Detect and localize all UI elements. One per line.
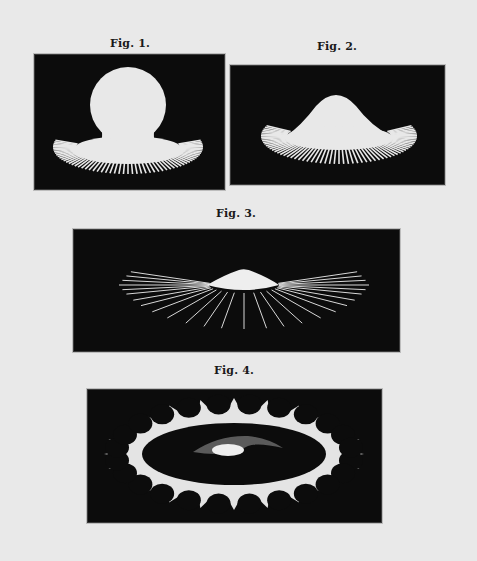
figure-2-illustration [231,66,444,184]
figure-3-illustration [74,230,399,351]
figure-2 [230,65,445,185]
figure-2-caption: Fig. 2. [297,40,377,53]
figure-4-caption: Fig. 4. [194,364,274,377]
figure-3-caption: Fig. 3. [196,207,276,220]
figure-1-illustration [35,55,224,189]
figure-4 [87,389,382,523]
figure-1-caption: Fig. 1. [90,37,170,50]
figure-4-illustration [88,390,381,522]
figure-1 [34,54,225,190]
figure-3 [73,229,400,352]
